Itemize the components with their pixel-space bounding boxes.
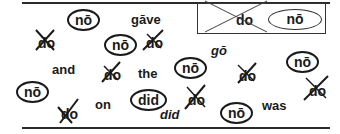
- legend-circled-word: nō: [268, 9, 322, 30]
- circled-word: nō: [16, 81, 49, 103]
- word: gāve: [131, 13, 161, 26]
- cross-out-icon: [185, 85, 186, 86]
- circled-word: nō: [67, 9, 100, 31]
- crossed-word: do: [146, 36, 163, 50]
- cross-out-icon: [102, 62, 103, 63]
- crossed-word: do: [188, 93, 205, 107]
- legend-box: do nō: [197, 3, 326, 34]
- cross-out-icon: [143, 30, 144, 31]
- word: was: [262, 99, 287, 112]
- word: and: [52, 63, 75, 76]
- crossed-word: do: [61, 107, 78, 121]
- circled-word: nō: [286, 51, 319, 73]
- cross-out-icon: [205, 1, 206, 2]
- cross-out-icon: [236, 63, 237, 64]
- crossed-word: do: [239, 69, 256, 83]
- word: gō: [211, 44, 227, 57]
- crossed-word: do: [309, 84, 326, 98]
- legend-crossed-word: do: [236, 13, 253, 27]
- cross-out-icon: [304, 76, 305, 77]
- crossed-word: do: [38, 36, 55, 50]
- bottom-rule: [22, 127, 330, 129]
- circled-word: nō: [104, 34, 137, 56]
- cross-out-icon: [36, 30, 37, 31]
- cross-out-icon: [58, 99, 59, 100]
- word: on: [95, 98, 111, 111]
- word: the: [138, 67, 158, 80]
- crossed-word: do: [104, 68, 121, 82]
- circled-word: nō: [220, 102, 253, 124]
- word: did: [160, 108, 180, 121]
- circled-word: nō: [174, 57, 207, 79]
